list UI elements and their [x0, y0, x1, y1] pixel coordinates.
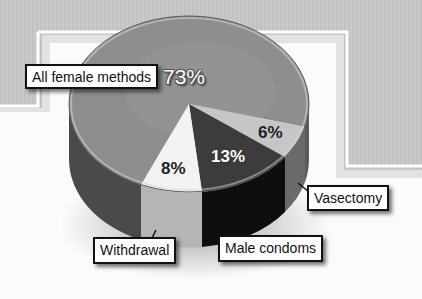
- callout-all-female-methods: All female methods: [25, 64, 158, 89]
- callout-male-condoms: Male condoms: [218, 235, 323, 262]
- value-label-withdrawal: 8%: [161, 160, 186, 177]
- callout-vasectomy: Vasectomy: [307, 185, 389, 211]
- value-label-male-condoms: 13%: [211, 148, 245, 165]
- pie-top: [69, 16, 309, 192]
- callout-withdrawal: Withdrawal: [93, 237, 176, 264]
- value-label-vasectomy: 6%: [258, 124, 283, 141]
- value-label-all-female-methods: 73%: [163, 66, 205, 87]
